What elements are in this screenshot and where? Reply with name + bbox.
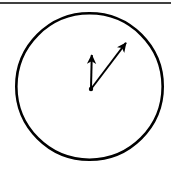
vertical-vector-shaft (91, 55, 92, 89)
figure-background (0, 0, 178, 173)
figure-container: Outline circle with two vectors drawn fr… (0, 0, 178, 173)
vector-origin-dot (89, 87, 93, 91)
vector-diagram (0, 0, 178, 173)
